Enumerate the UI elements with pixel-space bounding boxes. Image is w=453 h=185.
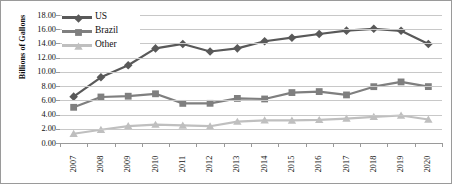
y-tick-label: 10.00 [22, 67, 56, 76]
x-tick-label: 2011 [177, 147, 189, 181]
y-axis-tick [56, 86, 60, 87]
y-axis-tick-labels: 0.002.004.006.008.0010.0012.0014.0016.00… [20, 0, 56, 185]
legend-item-brazil[interactable]: Brazil [62, 24, 140, 38]
y-axis-tick [56, 115, 60, 116]
x-axis-tick-labels: 2007200820092010201120122013201420152016… [60, 147, 442, 185]
y-tick-label: 2.00 [22, 124, 56, 133]
x-tick-label: 2007 [68, 147, 80, 181]
legend-label: US [95, 9, 107, 24]
legend-diamond-icon [73, 13, 84, 24]
y-tick-label: 6.00 [22, 96, 56, 105]
legend-item-us[interactable]: US [62, 10, 140, 24]
line-chart: Billions of Gallons 0.002.004.006.008.00… [0, 0, 453, 185]
x-tick-label: 2020 [422, 147, 434, 181]
y-axis-tick [56, 43, 60, 44]
x-tick-label: 2014 [259, 147, 271, 181]
y-axis-tick [56, 29, 60, 30]
series-brazil [70, 79, 432, 111]
data-point-marker [70, 104, 77, 111]
y-axis-tick [56, 72, 60, 73]
data-point-marker [343, 92, 350, 99]
data-point-marker [261, 96, 268, 103]
x-tick-label: 2010 [150, 147, 162, 181]
gridline [60, 58, 442, 59]
legend-label: Other [95, 37, 117, 52]
legend-square-icon [73, 27, 84, 38]
data-point-marker [206, 47, 215, 56]
gridline [60, 86, 442, 87]
y-axis-tick [56, 100, 60, 101]
gridline [60, 129, 442, 130]
x-tick-label: 2018 [368, 147, 380, 181]
data-point-marker [75, 29, 82, 36]
x-tick-label: 2008 [95, 147, 107, 181]
data-point-marker [397, 26, 406, 35]
x-tick-label: 2009 [122, 147, 134, 181]
data-point-marker [315, 30, 324, 39]
data-point-marker [342, 26, 351, 35]
y-tick-label: 18.00 [22, 11, 56, 20]
data-point-marker [152, 90, 159, 97]
gridline [60, 115, 442, 116]
y-axis-tick [56, 58, 60, 59]
x-tick-label: 2019 [395, 147, 407, 181]
data-point-marker [288, 33, 297, 42]
data-point-marker [74, 43, 82, 50]
x-tick-label: 2012 [204, 147, 216, 181]
chart-legend: USBrazilOther [62, 10, 140, 54]
y-axis-tick [56, 129, 60, 130]
data-point-marker [316, 88, 323, 95]
data-point-marker [74, 14, 83, 23]
data-point-marker [125, 93, 132, 100]
data-point-marker [289, 89, 296, 96]
data-point-marker [233, 44, 242, 53]
gridline [60, 72, 442, 73]
y-tick-label: 16.00 [22, 25, 56, 34]
legend-label: Brazil [95, 23, 118, 38]
x-tick-label: 2016 [313, 147, 325, 181]
x-tick-label: 2013 [231, 147, 243, 181]
x-tick-label: 2017 [341, 147, 353, 181]
x-tick-label: 2015 [286, 147, 298, 181]
y-tick-label: 8.00 [22, 82, 56, 91]
y-tick-label: 14.00 [22, 39, 56, 48]
y-tick-label: 12.00 [22, 53, 56, 62]
gridline [60, 100, 442, 101]
x-axis-tick [442, 143, 443, 147]
y-tick-label: 0.00 [22, 139, 56, 148]
y-axis-tick [56, 15, 60, 16]
legend-triangle-icon [73, 41, 84, 52]
data-point-marker [398, 79, 405, 86]
y-tick-label: 4.00 [22, 110, 56, 119]
legend-item-other[interactable]: Other [62, 38, 140, 52]
